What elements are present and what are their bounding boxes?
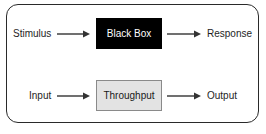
right-arrow-icon — [57, 92, 91, 100]
output-label: Output — [207, 90, 237, 102]
right-arrow-icon — [167, 30, 202, 38]
throughput-box-label: Throughput — [103, 90, 154, 101]
right-arrow-icon — [167, 92, 202, 100]
stimulus-label: Stimulus — [13, 28, 51, 40]
right-arrow-icon — [57, 30, 91, 38]
black-box-label: Black Box — [107, 28, 151, 39]
input-label: Input — [29, 90, 51, 102]
black-box: Black Box — [96, 18, 162, 49]
throughput-box: Throughput — [96, 80, 162, 111]
response-label: Response — [207, 28, 252, 40]
